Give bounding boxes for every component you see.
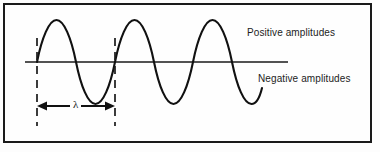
wavelength-symbol-label: λ — [70, 98, 81, 111]
positive-amplitudes-label: Positive amplitudes — [247, 27, 335, 38]
wave-diagram-figure: Positive amplitudes Negative amplitudes … — [0, 0, 380, 152]
negative-amplitudes-label: Negative amplitudes — [258, 73, 351, 84]
left-arrowhead-icon — [37, 102, 47, 111]
right-arrowhead-icon — [105, 102, 115, 111]
